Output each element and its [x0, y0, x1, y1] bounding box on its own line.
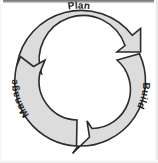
segment-build[interactable]: Build — [73, 54, 153, 154]
cycle-diagram-figure: Plan Build Manage — [0, 0, 158, 163]
segment-manage[interactable]: Manage — [8, 57, 77, 147]
segment-manage-shape[interactable] — [15, 57, 77, 147]
segment-build-shape[interactable] — [73, 54, 146, 154]
segment-plan-label: Plan — [67, 0, 91, 12]
cycle-diagram-svg: Plan Build Manage — [0, 0, 158, 163]
